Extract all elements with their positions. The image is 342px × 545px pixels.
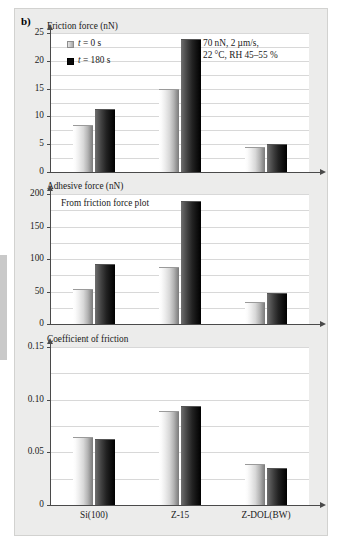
bar-z-dol-bw--series1 bbox=[245, 147, 265, 172]
legend-value: = 0 s bbox=[81, 38, 101, 48]
y-tick-mark bbox=[47, 347, 51, 348]
legend-symbol: t bbox=[78, 38, 81, 48]
bar-si-100--series2 bbox=[95, 264, 115, 324]
y-tick-label: 0.10 bbox=[15, 394, 44, 404]
y-axis-arrow-1 bbox=[47, 24, 53, 30]
gridline bbox=[51, 243, 309, 244]
y-axis-3 bbox=[50, 343, 51, 505]
gridline bbox=[51, 308, 309, 309]
y-tick-label: 50 bbox=[15, 286, 44, 296]
gridline bbox=[51, 400, 309, 401]
gridline bbox=[51, 158, 309, 159]
gridline bbox=[51, 130, 309, 131]
gridline bbox=[51, 292, 309, 293]
annotation-line: From friction force plot bbox=[61, 198, 149, 210]
y-tick-mark bbox=[47, 61, 51, 62]
bar-z-15-series1 bbox=[159, 411, 179, 505]
chart-panel-2: Adhesive force (nN)050100150200From fric… bbox=[15, 9, 329, 537]
gridline bbox=[51, 103, 309, 104]
legend-symbol: t bbox=[78, 55, 81, 65]
y-tick-mark bbox=[47, 227, 51, 228]
x-axis-arrow-2 bbox=[320, 321, 326, 327]
x-axis-2 bbox=[50, 324, 320, 325]
gridline bbox=[51, 259, 309, 260]
chart-annotation-1: 70 nN, 2 µm/s,22 °C, RH 45–55 % bbox=[203, 38, 278, 61]
annotation-line: 22 °C, RH 45–55 % bbox=[203, 50, 278, 62]
gridline bbox=[51, 210, 309, 211]
y-axis-arrow-3 bbox=[47, 338, 53, 344]
legend-value: = 180 s bbox=[81, 55, 111, 65]
y-tick-mark bbox=[47, 194, 51, 195]
bar-si-100--series1 bbox=[73, 437, 93, 505]
bar-z-dol-bw--series2 bbox=[267, 468, 287, 505]
gridline bbox=[51, 75, 309, 76]
plot-area-3 bbox=[51, 347, 309, 505]
y-tick-mark bbox=[47, 400, 51, 401]
y-tick-label: 5 bbox=[15, 138, 44, 148]
bar-z-dol-bw--series1 bbox=[245, 302, 265, 324]
legend-label-1: t = 0 s bbox=[78, 38, 101, 48]
y-axis-1 bbox=[50, 29, 51, 172]
panel-label: b) bbox=[21, 15, 31, 27]
y-tick-mark bbox=[47, 144, 51, 145]
y-tick-label: 0 bbox=[15, 166, 44, 176]
bar-z-15-series2 bbox=[181, 39, 201, 172]
page-edge-artifact bbox=[0, 255, 7, 360]
bar-z-15-series1 bbox=[159, 267, 179, 324]
y-tick-mark bbox=[47, 116, 51, 117]
gridline bbox=[51, 227, 309, 228]
gridline bbox=[51, 47, 309, 48]
gridline bbox=[51, 61, 309, 62]
y-tick-mark bbox=[47, 89, 51, 90]
gridline bbox=[51, 33, 309, 34]
bar-z-15-series2 bbox=[181, 406, 201, 505]
gridline bbox=[51, 452, 309, 453]
y-tick-label: 200 bbox=[15, 188, 44, 198]
figure-page: b) Friction force (nN)0510152025t = 0 st… bbox=[0, 0, 342, 545]
chart-panel-1: Friction force (nN)0510152025t = 0 st = … bbox=[15, 9, 329, 537]
plot-area-1 bbox=[51, 33, 309, 172]
bar-si-100--series1 bbox=[73, 289, 93, 324]
y-tick-mark bbox=[47, 172, 51, 173]
legend-swatch-1 bbox=[67, 41, 74, 48]
annotation-line: 70 nN, 2 µm/s, bbox=[203, 38, 278, 50]
legend-label-2: t = 180 s bbox=[78, 55, 110, 65]
chart-panel-3: Coefficient of friction00.050.100.15Si(1… bbox=[15, 9, 329, 537]
y-tick-mark bbox=[47, 452, 51, 453]
plot-area-2 bbox=[51, 194, 309, 324]
x-tick-label-z-dol-bw-: Z-DOL(BW) bbox=[221, 510, 311, 520]
y-tick-mark bbox=[47, 505, 51, 506]
gridline bbox=[51, 116, 309, 117]
y-axis-arrow-2 bbox=[47, 185, 53, 191]
figure-container: b) Friction force (nN)0510152025t = 0 st… bbox=[14, 8, 328, 536]
y-tick-label: 0 bbox=[15, 318, 44, 328]
chart-title-3: Coefficient of friction bbox=[47, 334, 128, 344]
gridline bbox=[51, 144, 309, 145]
x-axis-arrow-3 bbox=[320, 502, 326, 508]
x-axis-3 bbox=[50, 505, 320, 506]
y-tick-label: 10 bbox=[15, 110, 44, 120]
bar-z-15-series1 bbox=[159, 89, 179, 172]
gridline bbox=[51, 373, 309, 374]
bar-si-100--series1 bbox=[73, 125, 93, 172]
gridline bbox=[51, 479, 309, 480]
y-tick-label: 150 bbox=[15, 221, 44, 231]
y-tick-mark bbox=[47, 259, 51, 260]
y-tick-label: 0.05 bbox=[15, 446, 44, 456]
gridline bbox=[51, 194, 309, 195]
y-tick-label: 0.15 bbox=[15, 341, 44, 351]
chart-title-1: Friction force (nN) bbox=[47, 21, 118, 31]
x-tick-label-z-15: Z-15 bbox=[135, 510, 225, 520]
chart-annotation-2: From friction force plot bbox=[61, 198, 149, 210]
bar-z-dol-bw--series2 bbox=[267, 144, 287, 172]
gridline bbox=[51, 89, 309, 90]
y-tick-mark bbox=[47, 292, 51, 293]
bar-z-15-series2 bbox=[181, 201, 201, 324]
x-axis-arrow-1 bbox=[320, 169, 326, 175]
y-tick-mark bbox=[47, 324, 51, 325]
y-tick-label: 20 bbox=[15, 55, 44, 65]
gridline bbox=[51, 347, 309, 348]
y-tick-label: 100 bbox=[15, 253, 44, 263]
y-tick-label: 0 bbox=[15, 499, 44, 509]
x-tick-label-si-100-: Si(100) bbox=[49, 510, 139, 520]
